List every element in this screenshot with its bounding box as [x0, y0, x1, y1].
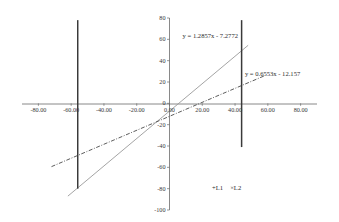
equation-label-l1: y = 1.2857x - 7.2772: [183, 33, 238, 40]
y-tick-label: -80: [146, 186, 166, 192]
y-tick-label: -40: [146, 143, 166, 149]
y-tick-label: 60: [146, 36, 166, 42]
y-tick-label: -20: [146, 122, 166, 128]
x-tick-label: -60.00: [63, 107, 79, 113]
legend-entry-l2: ×L2: [230, 185, 241, 192]
y-tick-label: 20: [146, 79, 166, 85]
y-tick-label: -100: [146, 207, 166, 213]
legend-entry-l1: +L1: [212, 185, 223, 192]
y-tick-label: 0: [146, 100, 166, 106]
x-tick-label: -20.00: [129, 107, 145, 113]
x-tick-label: 20.00: [195, 107, 209, 113]
chart-container: -80.00-60.00-40.00-20.000.0020.0040.0060…: [0, 0, 339, 222]
x-tick-label: 60.00: [261, 107, 275, 113]
chart-legend: +L1×L2: [212, 185, 241, 192]
y-tick-label: -60: [146, 164, 166, 170]
x-tick-label: 80.00: [294, 107, 308, 113]
equation-label-l2: y = 0.6553x - 12.157: [245, 71, 300, 78]
y-tick-label: 40: [146, 58, 166, 64]
x-tick-label: -40.00: [96, 107, 112, 113]
x-tick-label: 40.00: [228, 107, 242, 113]
y-tick-label: 80: [146, 15, 166, 21]
x-tick-label: 0.00: [164, 107, 175, 113]
x-tick-label: -80.00: [30, 107, 46, 113]
